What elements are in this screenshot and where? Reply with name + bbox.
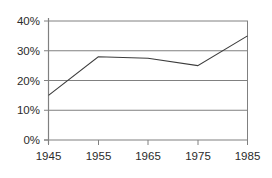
y-tick-label-30: 30% [6, 45, 40, 57]
x-tick-label-1955: 1955 [79, 150, 119, 162]
x-axis-ticks [49, 140, 248, 145]
x-tick-label-1945: 1945 [29, 150, 69, 162]
x-tick-label-1985: 1985 [228, 150, 268, 162]
line-chart: 40% 30% 20% 10% 0% 1945 1955 1965 1975 1… [0, 0, 272, 178]
y-axis-ticks [44, 21, 48, 140]
x-tick-label-1975: 1975 [178, 150, 218, 162]
y-tick-label-0: 0% [6, 134, 40, 146]
y-tick-label-40: 40% [6, 15, 40, 27]
y-tick-label-10: 10% [6, 104, 40, 116]
y-tick-label-20: 20% [6, 75, 40, 87]
x-tick-label-1965: 1965 [128, 150, 168, 162]
